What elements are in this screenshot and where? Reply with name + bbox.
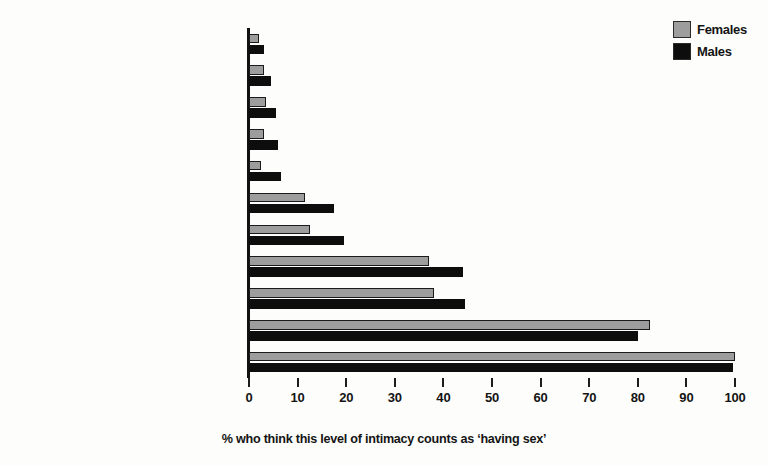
x-tick bbox=[297, 378, 299, 387]
bar-group: Penile-vaginal intercourse bbox=[249, 352, 735, 373]
bar-group: You touch other’s breasts/nipples bbox=[249, 129, 735, 150]
plot-area: Deep kissingOral contact on your breasts… bbox=[249, 28, 735, 378]
x-axis-title: % who think this level of intimacy count… bbox=[0, 432, 768, 446]
x-tick bbox=[588, 378, 590, 387]
bar-males bbox=[249, 363, 733, 373]
bar-males bbox=[249, 108, 276, 118]
bar-females bbox=[249, 161, 261, 171]
x-tick bbox=[394, 378, 396, 387]
bar-group: You touch other’s genitals bbox=[249, 193, 735, 214]
bar-males bbox=[249, 299, 465, 309]
bar-females bbox=[249, 34, 259, 44]
bar-females bbox=[249, 320, 650, 330]
bar-females bbox=[249, 288, 434, 298]
bar-males bbox=[249, 204, 334, 214]
bar-females bbox=[249, 225, 310, 235]
x-tick-label: 70 bbox=[582, 390, 596, 405]
x-tick bbox=[685, 378, 687, 387]
bar-females bbox=[249, 352, 735, 362]
x-tick-label: 100 bbox=[724, 390, 745, 405]
x-tick bbox=[637, 378, 639, 387]
bar-group: Oral contact on your breasts/nipples bbox=[249, 65, 735, 86]
bar-males bbox=[249, 45, 264, 55]
bar-females bbox=[249, 65, 264, 75]
bar-group: Person touches other’s genitals bbox=[249, 225, 735, 246]
bar-females bbox=[249, 193, 305, 203]
bar-females bbox=[249, 129, 264, 139]
chart-figure: Females Males Deep kissingOral contact o… bbox=[0, 0, 768, 465]
bar-males bbox=[249, 172, 281, 182]
bar-males bbox=[249, 236, 344, 246]
page-title bbox=[8, 0, 760, 3]
x-tick-label: 0 bbox=[245, 390, 252, 405]
x-tick-label: 30 bbox=[388, 390, 402, 405]
x-tick bbox=[491, 378, 493, 387]
x-tick-label: 90 bbox=[679, 390, 693, 405]
bar-group: Penile-anal intercourse bbox=[249, 320, 735, 341]
bar-males bbox=[249, 331, 638, 341]
x-tick bbox=[248, 378, 250, 387]
x-tick bbox=[345, 378, 347, 387]
bar-group: Deep kissing bbox=[249, 34, 735, 55]
x-tick-label: 40 bbox=[436, 390, 450, 405]
bar-group: Person touches your breasts/nipples bbox=[249, 97, 735, 118]
bar-group: Oral contact with other’s genitals bbox=[249, 256, 735, 277]
x-tick bbox=[442, 378, 444, 387]
bar-females bbox=[249, 256, 429, 266]
x-tick-label: 50 bbox=[485, 390, 499, 405]
bar-males bbox=[249, 267, 463, 277]
x-axis: 0102030405060708090100 bbox=[249, 378, 735, 418]
bar-group: Oral contact with your genitals bbox=[249, 288, 735, 309]
x-tick bbox=[734, 378, 736, 387]
x-tick-label: 80 bbox=[631, 390, 645, 405]
bar-males bbox=[249, 140, 278, 150]
x-tick bbox=[540, 378, 542, 387]
x-tick-label: 10 bbox=[291, 390, 305, 405]
x-tick-label: 20 bbox=[339, 390, 353, 405]
bar-males bbox=[249, 76, 271, 86]
bar-females bbox=[249, 97, 266, 107]
bar-group: Oral contact on other’s breasts/nipples bbox=[249, 161, 735, 182]
x-tick-label: 60 bbox=[534, 390, 548, 405]
